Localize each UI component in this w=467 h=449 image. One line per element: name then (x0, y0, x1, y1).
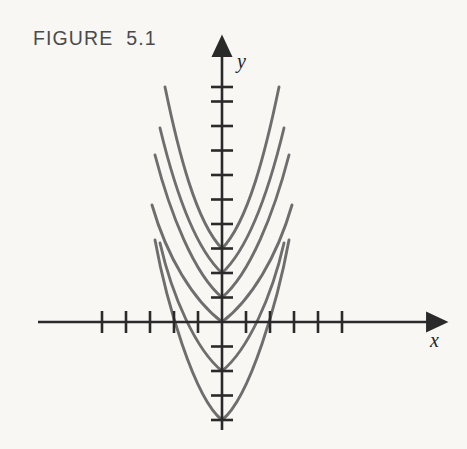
figure-container: FIGURE 5.1 (0, 0, 467, 449)
x-axis-label: x (429, 329, 439, 351)
coordinate-plot: x y (0, 0, 467, 449)
y-axis-label: y (235, 50, 246, 73)
x-axis-group: x (38, 311, 439, 351)
